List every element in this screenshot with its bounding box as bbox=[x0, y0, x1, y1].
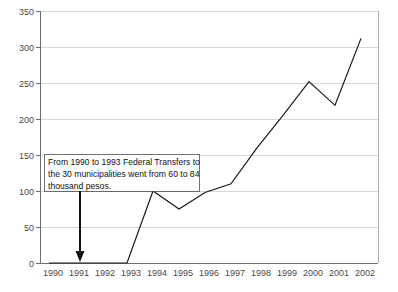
y-tick-label: 100 bbox=[19, 187, 34, 197]
line-chart: 350 300 250 200 150 100 50 0 From 1990 t… bbox=[0, 0, 398, 292]
annotation-line-2: the 30 municipalities went from 60 to 84 bbox=[48, 169, 200, 179]
x-tick-label: 2000 bbox=[303, 268, 323, 278]
x-tick-label: 1998 bbox=[251, 268, 271, 278]
x-tick-label: 1995 bbox=[173, 268, 193, 278]
y-tick-marks bbox=[36, 11, 40, 263]
y-axis-tick-labels: 350 300 250 200 150 100 50 0 bbox=[19, 7, 34, 269]
annotation-line-1: From 1990 to 1993 Federal Transfers to bbox=[48, 157, 200, 167]
x-tick-label: 1990 bbox=[43, 268, 63, 278]
y-tick-label: 300 bbox=[19, 43, 34, 53]
y-tick-label: 250 bbox=[19, 79, 34, 89]
y-tick-label: 150 bbox=[19, 151, 34, 161]
y-tick-label: 0 bbox=[29, 259, 34, 269]
x-tick-label: 1997 bbox=[225, 268, 245, 278]
x-axis-tick-labels: 1990199119921993199419951996199719981999… bbox=[43, 268, 375, 278]
x-tick-label: 1992 bbox=[95, 268, 115, 278]
x-tick-label: 1999 bbox=[277, 268, 297, 278]
y-tick-label: 200 bbox=[19, 115, 34, 125]
y-tick-label: 50 bbox=[24, 223, 34, 233]
y-tick-label: 350 bbox=[19, 7, 34, 17]
plot-background bbox=[40, 11, 378, 263]
x-tick-label: 1993 bbox=[121, 268, 141, 278]
x-tick-label: 2001 bbox=[329, 268, 349, 278]
chart-container: 350 300 250 200 150 100 50 0 From 1990 t… bbox=[0, 0, 398, 292]
x-tick-label: 1994 bbox=[147, 268, 167, 278]
annotation-line-3: thousand pesos. bbox=[48, 181, 111, 191]
x-tick-label: 2002 bbox=[355, 268, 375, 278]
x-tick-label: 1996 bbox=[199, 268, 219, 278]
x-tick-label: 1991 bbox=[69, 268, 89, 278]
